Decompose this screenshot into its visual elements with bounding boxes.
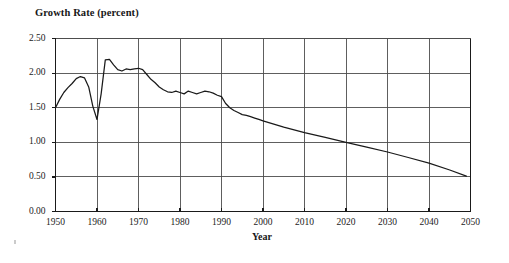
data-series-line <box>56 59 467 176</box>
axis-ticks <box>52 39 471 212</box>
x-axis-tick-1960: 1960 <box>77 217 117 227</box>
scan-artifact-speck <box>14 240 16 244</box>
x-axis-tick-1990: 1990 <box>202 217 242 227</box>
x-axis-tick-1950: 1950 <box>36 217 76 227</box>
x-axis-tick-2000: 2000 <box>243 217 283 227</box>
x-axis-title: Year <box>242 231 282 242</box>
x-axis-tick-2040: 2040 <box>409 217 449 227</box>
y-axis-tick-0.00: 0.00 <box>16 206 46 216</box>
chart-figure: Growth Rate (percent) 0.000.501.001.502.… <box>0 0 509 263</box>
x-axis-tick-2050: 2050 <box>451 217 491 227</box>
y-axis-tick-1.50: 1.50 <box>16 102 46 112</box>
y-axis-tick-0.50: 0.50 <box>16 171 46 181</box>
y-axis-tick-1.00: 1.00 <box>16 136 46 146</box>
x-axis-tick-2030: 2030 <box>368 217 408 227</box>
gridlines <box>56 39 471 212</box>
x-axis-tick-1980: 1980 <box>160 217 200 227</box>
y-axis-tick-2.00: 2.00 <box>16 67 46 77</box>
y-axis-tick-2.50: 2.50 <box>16 33 46 43</box>
x-axis-tick-1970: 1970 <box>119 217 159 227</box>
x-axis-tick-2020: 2020 <box>326 217 366 227</box>
x-axis-tick-2010: 2010 <box>285 217 325 227</box>
